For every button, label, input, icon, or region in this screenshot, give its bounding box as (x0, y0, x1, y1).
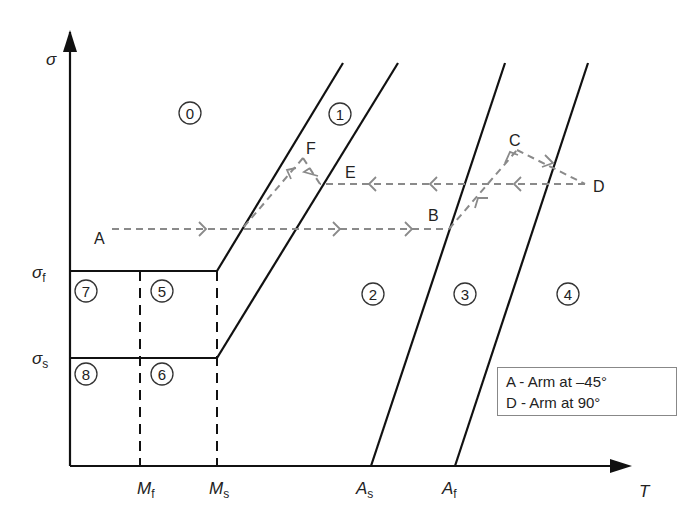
legend-item-a: A - Arm at –45° (506, 371, 676, 392)
region-0: 0 (186, 105, 194, 122)
x-axis-label: T (639, 482, 651, 501)
region-4: 4 (564, 286, 572, 303)
legend-item-d: D - Arm at 90° (506, 392, 676, 413)
x-tick-af: Af (441, 479, 457, 501)
point-b: B (428, 207, 439, 224)
region-3: 3 (461, 286, 469, 303)
path-direction-arrows (199, 152, 553, 236)
y-axis-arrow-icon (63, 30, 77, 52)
region-7: 7 (82, 283, 90, 300)
region-1: 1 (336, 106, 344, 123)
region-2: 2 (369, 286, 377, 303)
legend-box: A - Arm at –45° D - Arm at 90° (497, 367, 677, 416)
region-8: 8 (82, 366, 90, 383)
region-labels (75, 102, 579, 385)
region-6: 6 (158, 366, 166, 383)
point-f: F (306, 140, 316, 157)
x-tick-mf: Mf (137, 479, 155, 501)
as-line (371, 63, 505, 466)
y-tick-sigma-f: σf (32, 263, 46, 285)
x-axis-arrow-icon (610, 459, 632, 473)
point-c: C (509, 132, 521, 149)
region-5: 5 (158, 283, 166, 300)
y-tick-sigma-s: σs (32, 349, 48, 371)
point-e: E (345, 164, 356, 181)
point-d: D (593, 178, 605, 195)
phase-diagram: σf σs σ Mf Ms As Af T 0 1 2 3 4 5 6 7 8 (0, 0, 685, 521)
transformation-line-finish (217, 63, 343, 271)
x-tick-as: As (355, 479, 373, 501)
point-a: A (94, 230, 105, 247)
loading-path (112, 150, 585, 229)
x-tick-ms: Ms (209, 479, 229, 501)
transformation-line-start (217, 63, 398, 358)
y-axis-label: σ (46, 50, 57, 69)
